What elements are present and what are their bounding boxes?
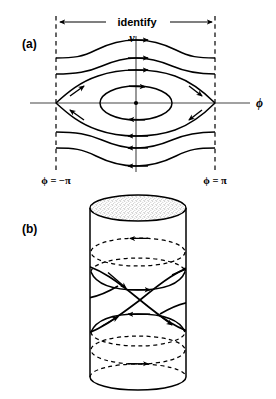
cylinder-top-disc (90, 195, 186, 221)
figure-container: (a) identify ϕ v (0, 0, 276, 399)
phi-axis-label: ϕ (256, 96, 263, 110)
panel-a-label: (a) (22, 37, 37, 51)
phi-plus-pi-label: ϕ = π (203, 175, 227, 186)
panel-b-label: (b) (22, 222, 37, 236)
center-fixed-point (134, 101, 138, 105)
v-axis-label: v (129, 31, 135, 45)
identify-label: identify (117, 16, 157, 28)
phi-minus-pi-label: ϕ = −π (41, 175, 71, 186)
pendulum-phase-figure: (a) identify ϕ v (0, 0, 276, 399)
